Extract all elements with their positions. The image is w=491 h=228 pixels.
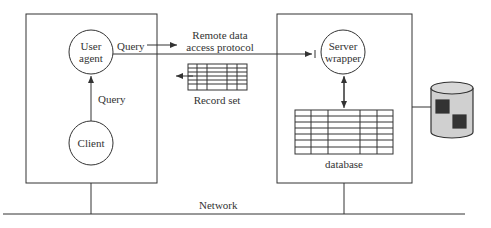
user-agent-line1: User (71, 40, 111, 52)
diagram-canvas: User agent Client Query Query Remote dat… (0, 0, 491, 228)
server-wrapper-label: Server wrapper (320, 40, 366, 64)
protocol-label: Remote data access protocol (180, 29, 260, 53)
protocol-line2: access protocol (180, 41, 260, 53)
network-label: Network (199, 199, 238, 211)
database-table (295, 110, 393, 154)
client-label: Client (71, 137, 111, 149)
query-outgoing-label: Query (117, 40, 145, 52)
database-label: database (314, 158, 374, 170)
record-set-table (188, 64, 247, 90)
database-cylinder-icon (431, 82, 473, 138)
record-set-label: Record set (182, 94, 252, 106)
query-internal-label: Query (98, 93, 126, 105)
server-line2: wrapper (320, 52, 366, 64)
server-line1: Server (320, 40, 366, 52)
protocol-line1: Remote data (180, 29, 260, 41)
user-agent-line2: agent (71, 52, 111, 64)
user-agent-label: User agent (71, 40, 111, 64)
